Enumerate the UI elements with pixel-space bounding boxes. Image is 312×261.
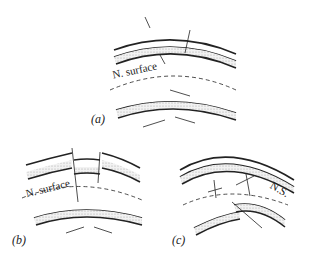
panel-b-lower-layers bbox=[34, 210, 142, 233]
panel-c-neutral-surface bbox=[183, 194, 288, 205]
panel-c-lower-layers bbox=[194, 202, 285, 235]
panel-a-lower-layers bbox=[116, 90, 236, 127]
panel-c-label: (c) bbox=[172, 233, 185, 248]
fold-diagram bbox=[0, 0, 312, 261]
panel-a-neutral-surface bbox=[110, 76, 236, 90]
panel-b-label: (b) bbox=[12, 233, 26, 248]
panel-a-upper-layers bbox=[114, 17, 236, 68]
panel-a-label: (a) bbox=[91, 112, 105, 127]
